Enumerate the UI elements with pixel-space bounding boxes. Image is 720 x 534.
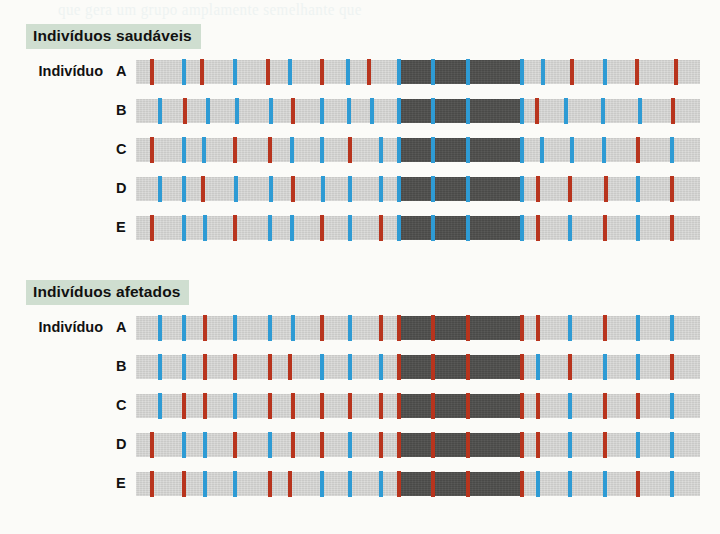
group-healthy-badge: Indivíduos saudáveis: [26, 24, 201, 49]
marker-tick-blue: [268, 432, 272, 458]
marker-tick-blue: [348, 215, 352, 241]
marker-tick-blue: [601, 98, 605, 124]
marker-tick-blue: [347, 98, 351, 124]
marker-tick-red: [431, 471, 435, 497]
shared-haplotype-segment: [397, 355, 524, 379]
row-label-affected-c: C: [0, 392, 128, 418]
marker-tick-blue: [320, 98, 324, 124]
marker-tick-blue: [568, 315, 572, 341]
shared-haplotype-segment: [397, 177, 524, 201]
marker-tick-blue: [233, 315, 237, 341]
marker-tick-red: [670, 176, 674, 202]
marker-tick-blue: [268, 215, 272, 241]
marker-tick-red: [379, 215, 383, 241]
chromosome-bar: [136, 472, 700, 496]
marker-tick-blue: [636, 315, 640, 341]
shared-haplotype-segment: [397, 216, 524, 240]
marker-tick-blue: [182, 137, 186, 163]
marker-tick-red: [203, 354, 207, 380]
chromosome-bar: [136, 316, 700, 340]
row-label-affected-b: B: [0, 353, 128, 379]
marker-tick-red: [320, 393, 324, 419]
marker-tick-red: [431, 354, 435, 380]
marker-tick-red: [150, 215, 154, 241]
marker-tick-red: [397, 354, 401, 380]
marker-tick-red: [288, 471, 292, 497]
marker-tick-blue: [466, 176, 470, 202]
marker-tick-blue: [348, 432, 352, 458]
marker-tick-red: [570, 59, 574, 85]
marker-tick-red: [636, 137, 640, 163]
marker-tick-red: [379, 432, 383, 458]
row-label-letter: A: [116, 314, 128, 340]
row-label-word: Indivíduo: [39, 63, 103, 79]
marker-tick-red: [674, 59, 678, 85]
marker-tick-red: [150, 432, 154, 458]
marker-tick-red: [603, 432, 607, 458]
chromosome-row-affected-d: D: [0, 431, 720, 470]
marker-tick-blue: [602, 137, 606, 163]
marker-tick-blue: [235, 98, 239, 124]
marker-tick-blue: [466, 137, 470, 163]
marker-tick-blue: [466, 98, 470, 124]
marker-tick-red: [520, 354, 524, 380]
marker-tick-blue: [182, 432, 186, 458]
row-label-letter: B: [116, 353, 128, 379]
group-affected-badge: Indivíduos afetados: [26, 280, 189, 305]
row-label-healthy-c: C: [0, 136, 128, 162]
marker-tick-blue: [397, 59, 401, 85]
row-label-affected-d: D: [0, 431, 128, 457]
group-healthy: Indivíduos saudáveis IndivíduoABCDE: [0, 24, 720, 253]
marker-tick-blue: [670, 471, 674, 497]
chromosome-row-affected-c: C: [0, 392, 720, 431]
marker-tick-blue: [541, 59, 545, 85]
marker-tick-red: [466, 354, 470, 380]
marker-tick-red: [670, 354, 674, 380]
marker-tick-red: [397, 315, 401, 341]
marker-tick-blue: [540, 137, 544, 163]
marker-tick-blue: [206, 98, 210, 124]
shared-haplotype-segment: [397, 472, 524, 496]
marker-tick-red: [520, 315, 524, 341]
chromosome-bar: [136, 394, 700, 418]
marker-tick-blue: [520, 215, 524, 241]
marker-tick-red: [635, 59, 639, 85]
marker-tick-blue: [158, 393, 162, 419]
marker-tick-red: [268, 137, 272, 163]
marker-tick-blue: [466, 59, 470, 85]
marker-tick-red: [266, 59, 270, 85]
marker-tick-red: [203, 315, 207, 341]
marker-tick-red: [233, 432, 237, 458]
row-label-letter: B: [116, 97, 128, 123]
marker-tick-red: [536, 432, 540, 458]
marker-tick-red: [466, 393, 470, 419]
marker-tick-red: [233, 137, 237, 163]
marker-tick-red: [603, 215, 607, 241]
marker-tick-blue: [233, 471, 237, 497]
row-label-word: Indivíduo: [39, 319, 103, 335]
row-label-letter: E: [116, 214, 128, 240]
marker-tick-red: [182, 471, 186, 497]
marker-tick-red: [520, 432, 524, 458]
marker-tick-red: [536, 176, 540, 202]
row-label-affected-a: IndivíduoA: [0, 314, 128, 340]
row-label-affected-e: E: [0, 470, 128, 496]
marker-tick-blue: [431, 176, 435, 202]
row-label-letter: D: [116, 431, 128, 457]
marker-tick-blue: [320, 137, 324, 163]
marker-tick-blue: [233, 59, 237, 85]
marker-tick-red: [431, 315, 435, 341]
row-label-letter: C: [116, 392, 128, 418]
marker-tick-blue: [234, 176, 238, 202]
marker-tick-red: [520, 471, 524, 497]
marker-tick-red: [233, 215, 237, 241]
marker-tick-blue: [158, 176, 162, 202]
marker-tick-red: [536, 315, 540, 341]
row-label-healthy-d: D: [0, 175, 128, 201]
marker-tick-blue: [320, 471, 324, 497]
marker-tick-red: [636, 471, 640, 497]
marker-tick-blue: [536, 354, 540, 380]
marker-tick-blue: [379, 471, 383, 497]
chromosome-row-healthy-e: E: [0, 214, 720, 253]
marker-tick-blue: [182, 176, 186, 202]
